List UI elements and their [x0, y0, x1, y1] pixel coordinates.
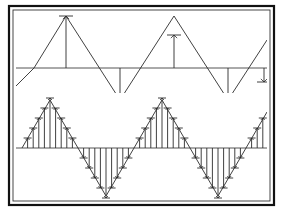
figure-background: [0, 0, 283, 211]
figure-container: [0, 0, 283, 211]
sampling-figure: [0, 0, 283, 211]
